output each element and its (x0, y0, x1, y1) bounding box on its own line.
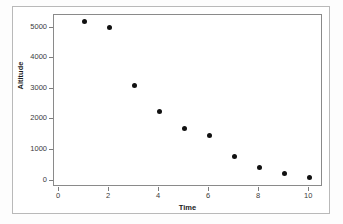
y-tick-label: 4000 (30, 53, 47, 61)
y-tick-label: 0 (43, 176, 47, 184)
data-point (207, 133, 212, 138)
y-tick-mark (49, 27, 53, 28)
x-tick-label: 6 (206, 192, 210, 200)
y-tick-label: 3000 (30, 84, 47, 92)
data-point (157, 109, 162, 114)
x-tick-label: 2 (106, 192, 110, 200)
y-tick-mark (49, 57, 53, 58)
y-tick-mark (49, 180, 53, 181)
x-tick-label: 10 (304, 192, 312, 200)
data-point (82, 19, 87, 24)
y-tick-mark (49, 88, 53, 89)
data-point (307, 175, 312, 180)
y-tick-mark (49, 118, 53, 119)
y-tick-mark (49, 149, 53, 150)
x-tick-label: 4 (156, 192, 160, 200)
y-tick-label: 2000 (30, 114, 47, 122)
x-tick-label: 8 (256, 192, 260, 200)
data-point (182, 126, 187, 131)
y-tick-label: 1000 (30, 145, 47, 153)
x-axis-title: Time (53, 203, 322, 212)
data-point (107, 25, 112, 30)
y-axis-title: Altitude (16, 76, 25, 90)
plot-panel (53, 14, 322, 186)
scatter-chart-figure: 010002000300040005000 0246810 Altitude T… (0, 0, 343, 224)
data-point (282, 171, 287, 176)
x-tick-label: 0 (56, 192, 60, 200)
data-points-layer (54, 15, 321, 185)
y-tick-label: 5000 (30, 23, 47, 31)
data-point (257, 165, 262, 170)
data-point (132, 83, 137, 88)
data-point (232, 154, 237, 159)
